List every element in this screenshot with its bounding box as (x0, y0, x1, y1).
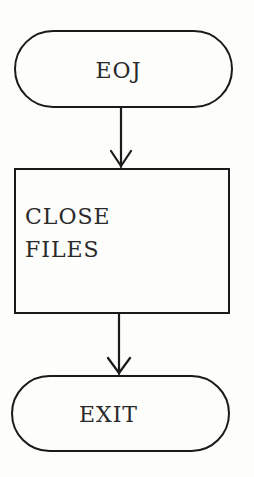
flowchart-canvas: EOJ CLOSE FILES EXIT (0, 0, 254, 477)
arrowhead-down-icon (108, 358, 130, 373)
node-label: EXIT (79, 402, 138, 427)
node-label: EOJ (96, 58, 142, 83)
edge-close-files-to-exit (108, 314, 130, 374)
edge-eoj-to-close-files (111, 108, 131, 167)
node-label: CLOSE FILES (25, 200, 111, 266)
process-close-files: CLOSE FILES (14, 168, 230, 314)
arrowhead-down-icon (111, 151, 131, 166)
node-label-line: CLOSE (25, 200, 111, 233)
terminator-eoj: EOJ (14, 30, 233, 108)
terminator-exit: EXIT (11, 375, 230, 452)
node-label-line: FILES (25, 233, 111, 266)
